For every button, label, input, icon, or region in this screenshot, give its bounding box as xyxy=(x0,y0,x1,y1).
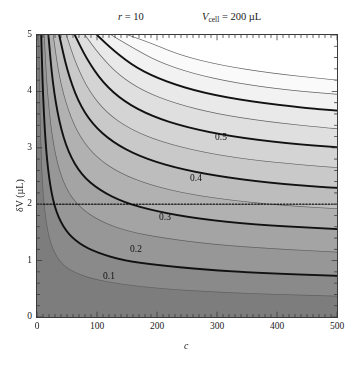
x-tick-label: 300 xyxy=(197,321,237,331)
contour-label: 0.1 xyxy=(103,271,115,281)
x-tick-label: 200 xyxy=(137,321,177,331)
y-tick-label: 5 xyxy=(14,29,32,39)
ratio-value: = 10 xyxy=(122,11,144,22)
vcell-subscript: cell xyxy=(208,15,219,24)
x-tick-label: 0 xyxy=(17,321,57,331)
x-tick-label: 500 xyxy=(317,321,357,331)
ratio-annotation: r = 10 xyxy=(118,11,144,22)
x-tick-label: 100 xyxy=(77,321,117,331)
vcell-value: = 200 µL xyxy=(219,11,261,22)
contour-label: 0.5 xyxy=(215,132,227,142)
x-tick-label: 400 xyxy=(257,321,297,331)
contour-label: 0.3 xyxy=(159,212,171,222)
y-tick-label: 3 xyxy=(14,142,32,152)
contour-canvas xyxy=(37,35,337,317)
contour-plot-figure: r = 10 Vcell = 200 µL 012345 01002003004… xyxy=(0,0,358,368)
y-tick-label: 1 xyxy=(14,255,32,265)
y-axis-label: δV (µL) xyxy=(14,179,25,212)
x-axis-label: c xyxy=(184,340,188,351)
contour-label: 0.4 xyxy=(190,173,202,183)
contour-label: 0.2 xyxy=(130,244,142,254)
y-tick-label: 4 xyxy=(14,85,32,95)
vcell-annotation: Vcell = 200 µL xyxy=(202,11,261,24)
plot-area xyxy=(36,34,338,318)
y-tick-label: 0 xyxy=(14,311,32,321)
